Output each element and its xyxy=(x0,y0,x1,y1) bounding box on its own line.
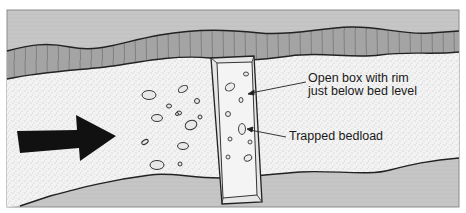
diagram-canvas xyxy=(0,0,466,213)
label-open-box: Open box with rim just below bed level xyxy=(308,72,417,98)
label-open-box-line2: just below bed level xyxy=(308,85,417,98)
label-trapped-bedload: Trapped bedload xyxy=(289,130,383,143)
bedload-trap-diagram: Open box with rim just below bed level T… xyxy=(0,0,466,213)
